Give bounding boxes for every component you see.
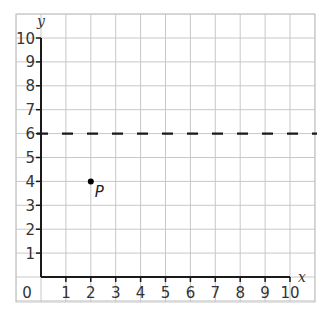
axis-ticks xyxy=(36,38,290,282)
x-tick-label: 0 xyxy=(22,284,32,302)
x-tick-label: 2 xyxy=(86,284,96,302)
tick-labels: 01234567891012345678910 xyxy=(16,30,300,303)
x-tick-label: 9 xyxy=(260,284,270,302)
point-label: P xyxy=(95,183,105,201)
x-tick-label: 3 xyxy=(111,284,121,302)
coordinate-grid-chart: 01234567891012345678910 x y P xyxy=(0,0,330,316)
x-tick-label: 4 xyxy=(136,284,146,302)
point-marker xyxy=(88,178,94,184)
x-tick-label: 10 xyxy=(280,284,299,302)
y-tick-label: 4 xyxy=(25,173,35,191)
y-tick-label: 1 xyxy=(25,245,35,263)
y-tick-label: 5 xyxy=(25,149,35,167)
y-tick-label: 6 xyxy=(25,125,35,143)
x-tick-label: 6 xyxy=(186,284,196,302)
x-tick-label: 8 xyxy=(235,284,245,302)
y-tick-label: 9 xyxy=(25,53,35,71)
y-axis-label: y xyxy=(36,13,46,29)
grid-lines xyxy=(16,14,315,302)
y-tick-label: 7 xyxy=(25,101,35,119)
x-tick-label: 1 xyxy=(61,284,71,302)
x-tick-label: 7 xyxy=(211,284,221,302)
y-tick-label: 10 xyxy=(16,30,35,48)
y-tick-label: 8 xyxy=(25,77,35,95)
y-tick-label: 2 xyxy=(25,221,35,239)
x-tick-label: 5 xyxy=(161,284,171,302)
y-tick-label: 3 xyxy=(25,197,35,215)
x-axis-label: x xyxy=(298,269,306,285)
